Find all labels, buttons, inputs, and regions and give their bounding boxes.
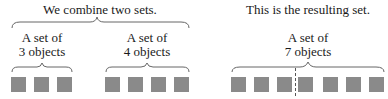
object-square [346,77,361,92]
set-b-objects [105,77,189,92]
object-square [105,77,120,92]
brace-set-a [12,63,72,72]
object-square [369,77,384,92]
result-objects [231,77,384,92]
brace-combined [12,17,189,28]
object-square [128,77,143,92]
set-a-objects [11,77,72,92]
object-square [151,77,166,92]
object-square [277,77,292,92]
object-square [57,77,72,92]
object-square [11,77,26,92]
brace-result [232,62,384,72]
object-square [298,77,313,92]
object-square [174,77,189,92]
brace-set-b [106,63,189,72]
object-square [323,77,338,92]
set-diagram [0,0,388,99]
object-square [254,77,269,92]
object-square [231,77,246,92]
object-square [34,77,49,92]
